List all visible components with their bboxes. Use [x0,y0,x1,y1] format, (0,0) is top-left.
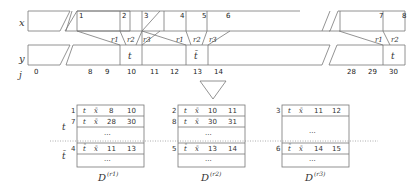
svg-text:5: 5 [172,145,176,153]
row-label-j: j [17,70,22,80]
svg-text:6: 6 [276,145,281,153]
r-label: r1 [375,36,383,44]
diagram: x y j 1 2 3 4 5 6 7 8 [0,0,419,194]
j-index: 9 [105,68,109,76]
svg-text:1: 1 [71,107,75,115]
x-marker: 6 [226,12,231,20]
svg-text:···: ··· [205,157,212,165]
svg-text:14: 14 [228,145,237,153]
svg-text:x̄: x̄ [195,107,199,115]
group-label-tbar: t̄ [62,150,66,161]
table-caption-sup: (r1) [107,170,119,177]
svg-text:10: 10 [208,107,217,115]
x-marker: 5 [202,12,206,20]
r-label: r3 [143,36,151,44]
svg-text:12: 12 [332,107,341,115]
r-label: r2 [193,36,201,44]
svg-text:8: 8 [109,107,113,115]
svg-text:x̄: x̄ [195,118,199,126]
j-index: 11 [150,68,159,76]
x-row [28,11,405,31]
r-label: r1 [176,36,184,44]
r-label: r3 [209,36,217,44]
svg-text:28: 28 [107,118,116,126]
svg-text:···: ··· [205,131,212,139]
svg-text:···: ··· [309,129,316,137]
row-label-y: y [18,53,25,64]
x-marker: 7 [379,12,383,20]
table-caption: D [200,172,209,183]
svg-text:31: 31 [228,118,237,126]
table-r1: 1 t x̄ 8 10 7 t x̄ 28 30 ··· 4 t̄ x̄ 11 … [71,105,144,167]
j-index: 0 [34,68,38,76]
j-index: 13 [193,68,202,76]
svg-text:15: 15 [332,145,341,153]
group-label-t: t [62,122,66,132]
svg-text:t̄: t̄ [288,143,291,153]
r-label: r2 [391,36,399,44]
svg-text:2: 2 [172,107,176,115]
j-index: 10 [127,68,136,76]
svg-text:t: t [184,107,187,115]
svg-text:13: 13 [127,145,136,153]
svg-text:30: 30 [127,118,136,126]
j-index: 30 [389,68,398,76]
j-index: 8 [88,68,92,76]
svg-text:3: 3 [276,107,280,115]
mapping-lines [77,31,390,45]
svg-text:x̄: x̄ [94,145,98,153]
table-caption: D [97,172,106,183]
svg-text:13: 13 [208,145,217,153]
row-label-x: x [19,17,25,28]
svg-text:x̄: x̄ [195,145,199,153]
svg-text:t: t [288,107,291,115]
svg-text:7: 7 [71,118,75,126]
y-cell-t: t [391,51,395,61]
table-caption-sup: (r3) [314,170,326,177]
svg-text:···: ··· [104,131,111,139]
j-index: 14 [214,68,223,76]
r-label: r2 [127,36,135,44]
table-caption-sup: (r2) [210,170,222,177]
svg-text:t̄: t̄ [184,143,187,153]
table-caption: D [304,172,313,183]
table-r3: 3 t x̄ 11 12 ··· 6 t̄ x̄ 14 15 ··· [276,105,349,167]
arrow-down-icon [200,81,226,99]
j-index: 12 [170,68,179,76]
svg-text:t̄: t̄ [83,143,86,153]
j-index: 28 [347,68,356,76]
svg-text:11: 11 [107,145,116,153]
y-cell-t: t [128,51,132,61]
j-index: 29 [368,68,377,76]
svg-text:t: t [83,118,86,126]
svg-text:x̄: x̄ [299,145,303,153]
y-cell-tbar: t̄ [194,50,198,61]
table-r2: 2 t x̄ 10 11 8 t x̄ 30 31 ··· 5 t̄ x̄ 13… [172,105,245,167]
svg-text:···: ··· [104,157,111,165]
svg-text:8: 8 [172,118,176,126]
x-marker: 1 [79,12,83,20]
svg-text:···: ··· [309,157,316,165]
svg-text:x̄: x̄ [94,107,98,115]
x-marker: 4 [180,12,185,20]
svg-text:x̄: x̄ [94,118,98,126]
r-label: r1 [111,36,119,44]
y-row [28,45,405,65]
x-marker: 2 [122,12,126,20]
svg-text:x̄: x̄ [299,107,303,115]
svg-text:t: t [83,107,86,115]
svg-text:11: 11 [314,107,323,115]
svg-text:4: 4 [71,145,76,153]
svg-text:10: 10 [127,107,136,115]
svg-text:11: 11 [228,107,237,115]
x-marker: 3 [144,12,148,20]
svg-text:14: 14 [314,145,323,153]
svg-text:t: t [184,118,187,126]
x-marker: 8 [402,12,406,20]
svg-text:30: 30 [208,118,217,126]
